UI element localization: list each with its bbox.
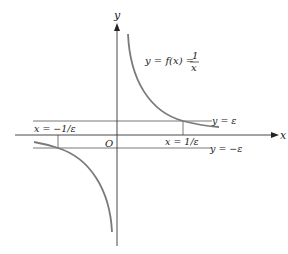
curve-positive-branch — [128, 34, 219, 127]
origin-label: O — [105, 138, 113, 149]
fraction-numerator: 1 — [192, 50, 198, 61]
x-axis-label: x — [280, 129, 287, 142]
fraction-denominator: x — [191, 62, 197, 73]
function-label: y = f(x) = — [144, 55, 194, 66]
y-axis-label: y — [113, 9, 121, 22]
x-axis-arrow-icon — [271, 132, 279, 138]
diagram-canvas: y x O y = f(x) = 1 x y = ε y = −ε x = 1/… — [0, 0, 288, 254]
upper-band-label: y = ε — [211, 115, 236, 126]
y-axis-arrow-icon — [114, 23, 120, 31]
curve-negative-branch — [34, 142, 112, 232]
neg-x-label: x = −1/ε — [34, 123, 76, 134]
lower-band-label: y = −ε — [209, 143, 242, 154]
hyperbola-diagram: y x O y = f(x) = 1 x y = ε y = −ε x = 1/… — [0, 0, 288, 254]
pos-x-label: x = 1/ε — [165, 136, 199, 147]
